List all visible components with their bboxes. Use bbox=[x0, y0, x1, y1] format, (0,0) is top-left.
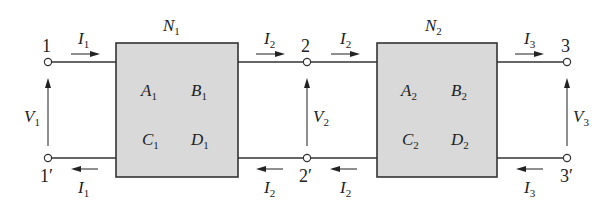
terminal-1p-node bbox=[44, 154, 51, 161]
arrow-right-icon bbox=[90, 51, 100, 57]
arrow-left-icon bbox=[516, 166, 526, 172]
cascade-two-port-diagram: N1 N2 A1 B1 C1 D1 A2 B2 C2 D2 1 1′ 2 2′ … bbox=[0, 0, 614, 208]
current-i2-top-n1-label: I2 bbox=[263, 29, 275, 50]
current-i1-bottom-label: I1 bbox=[77, 178, 89, 199]
terminal-1-node bbox=[44, 58, 51, 65]
terminal-2-node bbox=[303, 58, 310, 65]
network-n2-box bbox=[377, 43, 497, 177]
current-arrow-i2-top-n1 bbox=[256, 51, 285, 57]
terminal-2p-label: 2′ bbox=[299, 166, 312, 186]
current-i2-top-n2-label: I2 bbox=[339, 29, 351, 50]
voltage-arrow-v1 bbox=[45, 78, 51, 146]
arrow-right-icon bbox=[534, 51, 544, 57]
current-i2-bottom-n2-label: I2 bbox=[339, 178, 351, 199]
voltage-arrow-v3 bbox=[564, 78, 570, 146]
terminal-3-label: 3 bbox=[561, 36, 570, 56]
arrow-left-icon bbox=[71, 166, 81, 172]
arrow-up-icon bbox=[304, 78, 310, 88]
arrow-left-icon bbox=[256, 166, 266, 172]
arrow-up-icon bbox=[45, 78, 51, 88]
current-i3-top-label: I3 bbox=[523, 29, 536, 50]
terminal-2p-node bbox=[303, 154, 310, 161]
current-arrow-i1-top bbox=[71, 51, 100, 57]
terminal-3p-label: 3′ bbox=[560, 166, 573, 186]
current-arrow-i2-top-n2 bbox=[331, 51, 360, 57]
network-n2-label: N2 bbox=[424, 16, 442, 37]
terminal-1-label: 1 bbox=[42, 36, 51, 56]
current-i3-bottom-label: I3 bbox=[523, 178, 536, 199]
terminal-2-label: 2 bbox=[301, 36, 310, 56]
current-arrow-i3-bottom bbox=[516, 166, 543, 172]
arrow-up-icon bbox=[564, 78, 570, 88]
arrow-right-icon bbox=[275, 51, 285, 57]
terminal-1p-label: 1′ bbox=[40, 166, 53, 186]
current-i2-bottom-n1-label: I2 bbox=[263, 178, 275, 199]
network-n1-label: N1 bbox=[162, 16, 180, 37]
current-i1-top-label: I1 bbox=[77, 29, 89, 50]
current-arrow-i1-bottom bbox=[71, 166, 98, 172]
current-arrow-i2-bottom-n2 bbox=[330, 166, 357, 172]
voltage-v1-label: V1 bbox=[24, 107, 40, 128]
arrow-right-icon bbox=[350, 51, 360, 57]
terminal-3-node bbox=[563, 58, 570, 65]
voltage-v3-label: V3 bbox=[573, 107, 589, 128]
voltage-v2-label: V2 bbox=[313, 107, 329, 128]
arrow-left-icon bbox=[330, 166, 340, 172]
current-arrow-i2-bottom-n1 bbox=[256, 166, 283, 172]
network-n1-box bbox=[116, 43, 238, 177]
terminal-3p-node bbox=[563, 154, 570, 161]
current-arrow-i3-top bbox=[515, 51, 544, 57]
voltage-arrow-v2 bbox=[304, 78, 310, 146]
